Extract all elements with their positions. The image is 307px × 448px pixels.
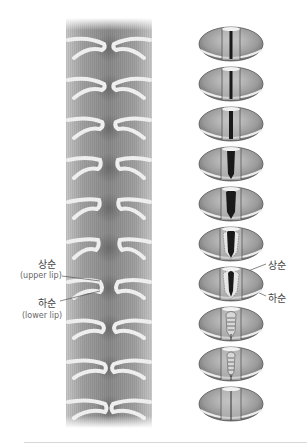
frame-5 xyxy=(199,187,263,221)
frame-3 xyxy=(199,107,263,141)
lower-lip-label-ko-right: 하순 xyxy=(268,290,286,305)
frame-10 xyxy=(199,387,263,421)
lower-lip-leader-left xyxy=(60,291,100,301)
glottis-top-views xyxy=(190,20,272,430)
upper-lip-label-ko-right: 상순 xyxy=(268,257,286,272)
upper-lip-leader-left xyxy=(62,276,100,281)
bottom-divider xyxy=(24,442,307,443)
frame-8 xyxy=(199,307,263,341)
superior-view-sequence xyxy=(190,20,272,430)
frame-9 xyxy=(199,347,263,381)
frame-6 xyxy=(199,227,263,261)
frame-7-labeled xyxy=(199,267,263,301)
frame-4 xyxy=(199,147,263,181)
frame-1 xyxy=(199,27,263,61)
frame-2 xyxy=(199,67,263,101)
